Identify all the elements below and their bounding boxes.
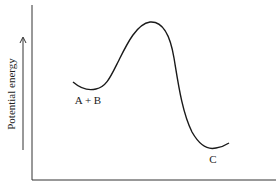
diagram-canvas: Potential energy A + B C	[0, 0, 280, 185]
product-label: C	[209, 153, 216, 165]
up-arrow-icon	[20, 37, 26, 150]
y-axis-label: Potential energy	[5, 58, 17, 130]
energy-curve	[73, 22, 229, 149]
energy-diagram: Potential energy A + B C	[0, 0, 280, 185]
reactants-label: A + B	[75, 94, 101, 106]
